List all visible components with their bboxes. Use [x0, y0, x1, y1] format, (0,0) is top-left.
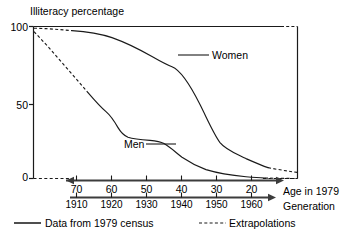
- legend-item-extrapolations-label: Extrapolations: [229, 218, 296, 229]
- generation-axis-arrowhead: [268, 194, 276, 202]
- age-axis-tick-label-40: 40: [169, 184, 195, 195]
- y-axis-tick-label-100: 100: [4, 22, 28, 33]
- age-axis-tick-label-60: 60: [99, 184, 125, 195]
- generation-axis-title: Generation: [283, 201, 335, 212]
- page-title: Illiteracy percentage: [30, 6, 124, 17]
- age-axis-tick-label-30: 30: [204, 184, 230, 195]
- age-axis-tick-label-70: 70: [64, 184, 90, 195]
- age-axis-tick-label-20: 20: [239, 184, 265, 195]
- generation-axis-tick-label-1940: 1940: [166, 200, 198, 210]
- generation-axis-tick-label-1950: 1950: [201, 200, 233, 210]
- y-axis-tick-label-0: 0: [4, 172, 28, 183]
- generation-axis-tick-label-1930: 1930: [131, 200, 163, 210]
- y-axis-tick-label-50: 50: [4, 100, 28, 111]
- generation-axis-tick-label-1960: 1960: [236, 200, 268, 210]
- legend-item-census-label: Data from 1979 census: [45, 218, 154, 229]
- series-label-men: Men: [124, 139, 144, 150]
- women-extrapolation-left: [34, 28, 72, 30]
- age-axis-tick-label-50: 50: [134, 184, 160, 195]
- generation-axis-tick-label-1910: 1910: [61, 200, 93, 210]
- men-data-curve: [88, 93, 265, 179]
- women-extrapolation-right: [268, 168, 298, 173]
- series-label-women: Women: [212, 50, 248, 61]
- generation-axis-tick-label-1920: 1920: [96, 200, 128, 210]
- illiteracy-chart-figure: Illiteracy percentage 100 50 0 70 60 50 …: [0, 0, 345, 234]
- men-extrapolation-left: [34, 32, 88, 93]
- age-axis-title: Age in 1979: [283, 186, 339, 197]
